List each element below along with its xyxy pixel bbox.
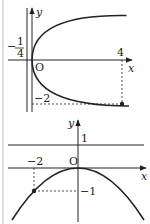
- bottom-point-marker: [32, 189, 36, 193]
- bottom-y-tick-label: −1: [80, 185, 96, 198]
- figure-canvas: y x O 4 −2 − 1 4 y x O 1 −2 −1: [0, 0, 150, 224]
- bottom-graph: y x O 1 −2 −1: [8, 117, 148, 222]
- top-origin-label: O: [35, 61, 44, 74]
- top-graph: y x O 4 −2 − 1 4: [7, 6, 135, 112]
- bottom-x-label: x: [141, 170, 148, 183]
- top-x-tick-label: 4: [117, 46, 124, 59]
- top-y-tick-label: −2: [34, 92, 50, 105]
- bottom-line-label: 1: [81, 132, 88, 145]
- bottom-x-tick-label: −2: [27, 155, 43, 168]
- top-directrix-sign: −: [7, 40, 16, 53]
- bottom-y-label: y: [67, 117, 75, 130]
- top-y-label: y: [35, 6, 43, 19]
- top-directrix-denominator: 4: [17, 47, 24, 60]
- bottom-origin-label: O: [69, 155, 78, 168]
- top-x-label: x: [128, 62, 135, 75]
- top-point-marker: [120, 102, 124, 106]
